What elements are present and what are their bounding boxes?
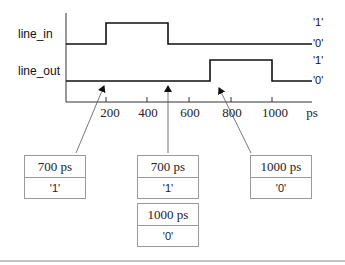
transaction-value: '0' [138,226,198,247]
tick-1000: 1000 [262,105,288,121]
tick-800: 800 [222,105,242,121]
transaction-box: 1000 ps '0' [137,203,199,247]
transaction-box: 700 ps '1' [137,155,199,199]
tick-600: 600 [180,105,200,121]
transaction-time: 700 ps [25,156,85,178]
transaction-time: 1000 ps [251,156,311,178]
line-out-waveform [66,60,312,81]
transaction-time: 700 ps [138,156,198,178]
line-in-waveform [66,23,312,44]
transaction-value: '1' [138,178,198,199]
line-in-label: line_in [18,27,53,41]
tick-200: 200 [100,105,120,121]
line-out-high-label: '1' [313,54,323,66]
axis-unit: ps [306,105,318,121]
timing-diagram: line_in line_out '1' '0' '1' '0' 200 400… [0,0,345,265]
line-in-low-label: '0' [313,37,323,49]
line-out-label: line_out [18,64,60,78]
tick-400: 400 [138,105,158,121]
line-out-low-label: '0' [313,74,323,86]
transaction-box: 1000 ps '0' [250,155,312,199]
transaction-box: 700 ps '1' [24,155,86,199]
line-in-high-label: '1' [313,16,323,28]
transaction-time: 1000 ps [138,204,198,226]
transaction-value: '0' [251,178,311,199]
transaction-value: '1' [25,178,85,199]
